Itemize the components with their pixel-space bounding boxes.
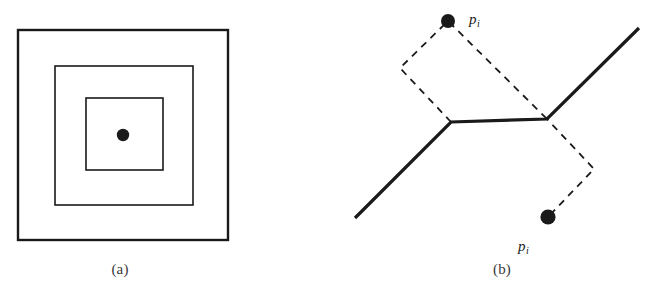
site-point-top [441, 14, 455, 28]
bisector-polyline [355, 28, 639, 218]
center-point [117, 129, 129, 141]
panel-b-caption: (b) [442, 262, 562, 277]
site-point-bottom-label-sub: i [526, 245, 529, 256]
figure-panel-a: (a) [0, 0, 330, 296]
dashed-parallelogram-bottom [451, 119, 594, 217]
panel-a-caption: (a) [60, 262, 180, 277]
site-point-top-label-base: p [469, 11, 477, 27]
dashed-parallelogram-top [400, 21, 547, 122]
figure-root: (a) pi pi (b) [0, 0, 652, 296]
site-point-top-label-sub: i [477, 18, 480, 29]
nested-squares-diagram [0, 0, 330, 258]
site-point-bottom-label-base: p [518, 238, 526, 254]
figure-panel-b: pi pi (b) [330, 0, 652, 296]
site-point-top-label: pi [469, 12, 479, 27]
site-point-bottom-label: pi [518, 239, 528, 254]
site-point-bottom [540, 209, 555, 224]
bisector-diagram [330, 0, 652, 258]
